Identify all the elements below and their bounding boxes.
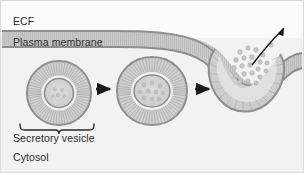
exocytosis-diagram: ECF Plasma membrane Secretory vesicle Cy…	[0, 0, 304, 173]
label-plasma-membrane: Plasma membrane	[13, 37, 103, 48]
label-secretory-vesicle: Secretory vesicle	[13, 133, 95, 144]
secretory-vesicle-docked	[116, 56, 187, 126]
secretory-vesicle-free	[27, 61, 91, 125]
label-ecf: ECF	[13, 16, 34, 27]
vesicle-1-core	[45, 79, 74, 108]
label-cytosol: Cytosol	[13, 152, 49, 163]
diagram-canvas	[0, 0, 304, 173]
